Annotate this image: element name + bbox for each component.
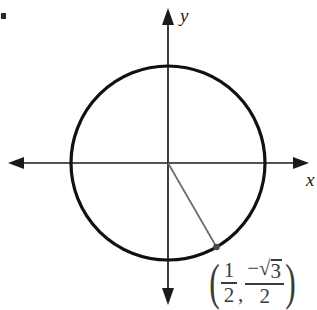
x-coordinate-fraction: 1 2 [221, 260, 237, 306]
x-axis-label: x [306, 170, 314, 189]
coordinate-point-label: ( 1 2 , − √ 3 2 ) [206, 258, 299, 307]
y-denominator: 2 [257, 286, 272, 307]
y-coordinate-fraction: − √ 3 2 [245, 258, 284, 307]
radical-sign: √ [259, 258, 271, 282]
x-denominator: 2 [222, 285, 237, 306]
y-numerator: − √ 3 [245, 258, 284, 282]
unit-circle-figure: y x ( 1 2 , − √ 3 2 ) [0, 0, 317, 310]
y-axis-down-arrowhead [162, 288, 174, 305]
open-paren: ( [209, 261, 220, 305]
y-axis-up-arrowhead [162, 8, 174, 25]
coordinate-comma: , [238, 284, 243, 307]
radicand: 3 [271, 259, 283, 282]
minus-sign: − [247, 258, 259, 282]
x-axis-left-arrowhead [8, 157, 24, 169]
y-axis-label: y [180, 6, 188, 25]
x-axis-right-arrowhead [293, 157, 309, 169]
terminal-point-marker [213, 244, 220, 251]
terminal-side-radius [168, 163, 217, 247]
x-numerator: 1 [222, 260, 237, 281]
radical-expression: − √ 3 [247, 258, 282, 282]
close-paren: ) [285, 261, 296, 305]
